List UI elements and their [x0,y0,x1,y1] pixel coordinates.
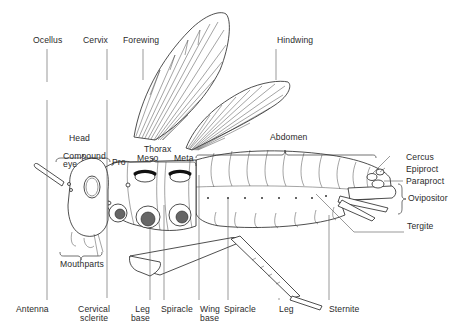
label-ocellus: Ocellus [33,36,62,46]
label-mouthparts: Mouthparts [60,260,104,270]
label-spiracle-thorax: Spiracle [161,305,193,315]
label-leg-base-line2: base [130,314,150,324]
label-antenna: Antenna [16,305,49,315]
label-epiproct: Epiproct [406,165,438,175]
label-paraproct: Paraproct [406,177,444,187]
label-forewing: Forewing [123,36,159,46]
label-cercus: Cercus [406,153,434,163]
label-pro: Pro [112,158,126,168]
hind-leg-drawing [129,236,322,310]
label-spiracle-abdomen: Spiracle [224,305,256,315]
head-drawing [68,158,109,256]
antenna-drawing [34,163,64,186]
label-tergite: Tergite [407,222,434,232]
thorax-drawing [102,160,196,231]
label-head: Head [69,134,90,144]
label-compound-eye-line2: eye [63,160,77,170]
ovipositor-bracket [398,184,406,214]
label-leg: Leg [279,305,294,315]
label-meso: Meso [137,154,158,164]
label-wing-base-line2: base [200,314,219,324]
label-sternite: Sternite [329,305,359,315]
label-hindwing: Hindwing [277,36,313,46]
label-cervix: Cervix [83,36,108,46]
label-abdomen: Abdomen [270,133,308,143]
label-ovipositor: Ovipositor [408,194,448,204]
label-meta: Meta [174,154,194,164]
insect-anatomy-diagram: Ocellus Cervix Forewing Hindwing Head Co… [0,0,457,327]
label-cervical-sclerite-line2: sclerite [78,314,110,324]
